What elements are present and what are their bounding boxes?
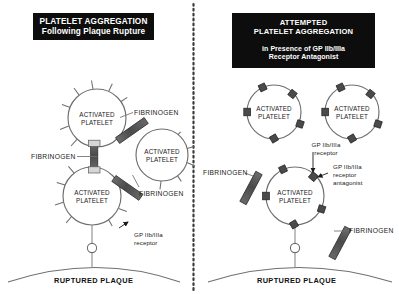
platelet-label-right-top-right: ACTIVATED PLATELET xyxy=(327,105,377,121)
left-banner-line2: Following Plaque Rupture xyxy=(33,27,154,37)
plaque-anchor-ring-right xyxy=(290,243,299,252)
receptor-label-left: GP IIb/IIIa receptor xyxy=(134,231,194,247)
platelet-label-line2: PLATELET xyxy=(279,197,311,204)
platelet-label-line1: ACTIVATED xyxy=(334,105,369,112)
platelet-label-right-bottom: ACTIVATED PLATELET xyxy=(270,189,320,205)
fibrinogen-label-left-middle: FIBRINOGEN xyxy=(31,153,76,161)
antagonist-label-line3: antagonist xyxy=(333,179,363,186)
leader-antagonist-right xyxy=(318,173,328,177)
platelet-label-line1: ACTIVATED xyxy=(74,189,109,196)
right-banner-sub-line2: Receptor Antagonist xyxy=(232,53,375,61)
figure-canvas: PLATELET AGGREGATION Following Plaque Ru… xyxy=(0,0,399,294)
platelet-label-line2: PLATELET xyxy=(76,197,108,204)
fibrinogen-label-right-lower: FIBRINOGEN xyxy=(349,227,394,235)
ruptured-plaque-label-right: RUPTURED PLAQUE xyxy=(257,276,336,285)
ruptured-plaque-label-left: RUPTURED PLAQUE xyxy=(54,276,133,285)
fibrinogen-label-left-top: FIBRINOGEN xyxy=(134,109,179,117)
platelet-label-line1: ACTIVATED xyxy=(256,105,291,112)
left-banner-line1: PLATELET AGGREGATION xyxy=(33,17,154,27)
fibrinogen-label-right-upper: FIBRINOGEN xyxy=(203,169,248,177)
platelet-label-line1: ACTIVATED xyxy=(79,111,114,118)
leader-receptor-left xyxy=(119,222,128,228)
fibrinogen-label-left-bottom: FIBRINOGEN xyxy=(139,190,184,198)
receptor-label-line2: receptor xyxy=(314,149,338,156)
platelet-label-line2: PLATELET xyxy=(146,156,178,163)
right-panel-title-banner: ATTEMPTED PLATELET AGGREGATION in Presen… xyxy=(232,13,375,68)
platelet-label-left-right: ACTIVATED PLATELET xyxy=(137,148,187,164)
receptor-label-line1: GP IIb/IIIa xyxy=(312,141,341,148)
platelet-label-line2: PLATELET xyxy=(336,113,368,120)
platelet-label-left-bottom: ACTIVATED PLATELET xyxy=(67,189,117,205)
platelet-label-right-top-left: ACTIVATED PLATELET xyxy=(249,105,299,121)
platelet-label-line1: ACTIVATED xyxy=(277,189,312,196)
platelet-label-line1: ACTIVATED xyxy=(144,148,179,155)
platelet-label-line2: PLATELET xyxy=(81,119,113,126)
left-panel-title-banner: PLATELET AGGREGATION Following Plaque Ru… xyxy=(33,13,154,40)
platelet-label-line2: PLATELET xyxy=(258,113,290,120)
receptor-label-line2: receptor xyxy=(134,239,158,246)
receptor-label-right: GP IIb/IIIa receptor xyxy=(296,141,356,157)
platelet-label-left-top: ACTIVATED PLATELET xyxy=(72,111,122,127)
right-banner-line2: PLATELET AGGREGATION xyxy=(232,28,375,37)
leader-fib-bottom xyxy=(133,175,140,187)
plaque-anchor-ring-left xyxy=(87,243,96,252)
antagonist-label-line2: receptor xyxy=(333,171,357,178)
antagonist-label-right: GP IIb/IIIa receptor antagonist xyxy=(333,163,395,186)
right-banner-sub-line1: in Presence of GP IIb/IIIa xyxy=(232,45,375,53)
right-banner-spacer xyxy=(232,37,375,45)
receptor-label-line1: GP IIb/IIIa xyxy=(134,231,163,238)
antagonist-label-line1: GP IIb/IIIa xyxy=(333,163,362,170)
